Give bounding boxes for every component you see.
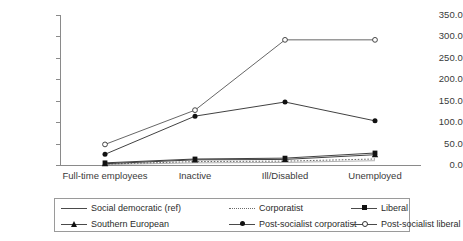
solid-line-icon bbox=[61, 203, 87, 213]
legend-item-post-socialist-corporatist[interactable]: Post-socialist corporatist bbox=[229, 216, 351, 232]
legend-label: Post-socialist liberal bbox=[381, 220, 461, 229]
data-point-marker bbox=[373, 37, 378, 42]
legend-label: Liberal bbox=[381, 204, 408, 213]
legend-label: Southern European bbox=[91, 220, 169, 229]
legend-item-post-socialist-liberal[interactable]: Post-socialist liberal bbox=[351, 216, 461, 232]
data-point-marker bbox=[103, 142, 108, 147]
legend-item-social-democratic[interactable]: Social democratic (ref) bbox=[61, 200, 229, 216]
series-post-socialist-corporatist bbox=[103, 100, 378, 157]
filled-square-marker-icon bbox=[351, 203, 377, 213]
series-post-socialist-liberal bbox=[103, 37, 378, 146]
legend-label: Social democratic (ref) bbox=[91, 204, 181, 213]
chart-legend: Social democratic (ref) Corporatist Libe… bbox=[54, 198, 410, 232]
legend-item-southern-european[interactable]: Southern European bbox=[61, 216, 229, 232]
data-point-marker bbox=[283, 100, 288, 105]
legend-item-liberal[interactable]: Liberal bbox=[351, 200, 461, 216]
filled-circle-marker-icon bbox=[229, 219, 255, 229]
open-circle-marker-icon bbox=[351, 219, 377, 229]
data-point-marker bbox=[193, 114, 198, 119]
series-line bbox=[105, 40, 375, 145]
legend-label: Post-socialist corporatist bbox=[259, 220, 357, 229]
data-point-marker bbox=[373, 118, 378, 123]
data-point-marker bbox=[103, 152, 108, 157]
line-chart: 0.050.0100.0150.0200.0250.0300.0350.0 Fu… bbox=[0, 0, 463, 241]
legend-item-corporatist[interactable]: Corporatist bbox=[229, 200, 351, 216]
data-point-marker bbox=[193, 108, 198, 113]
filled-triangle-marker-icon bbox=[61, 219, 87, 229]
data-point-marker bbox=[283, 37, 288, 42]
dotted-line-icon bbox=[229, 203, 255, 213]
series-line bbox=[105, 102, 375, 154]
legend-label: Corporatist bbox=[259, 204, 303, 213]
